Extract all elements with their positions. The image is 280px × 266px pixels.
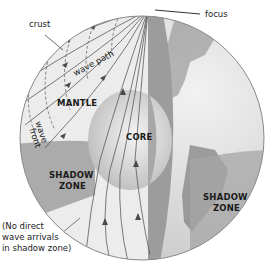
label-core: CORE (126, 133, 153, 142)
crust-leader (45, 35, 63, 50)
focus-leader (155, 10, 200, 14)
label-mantle: MANTLE (57, 99, 97, 108)
label-crust: crust (29, 20, 50, 29)
label-shadow-zone-left-2: ZONE (59, 182, 86, 191)
label-shadow-zone-right-2: ZONE (213, 204, 240, 213)
label-note: (No direct wave arrivals in shadow zone) (2, 221, 71, 254)
label-shadow-zone-right-1: SHADOW (203, 193, 248, 202)
label-focus: focus (205, 10, 228, 19)
label-shadow-zone-left-1: SHADOW (49, 171, 94, 180)
